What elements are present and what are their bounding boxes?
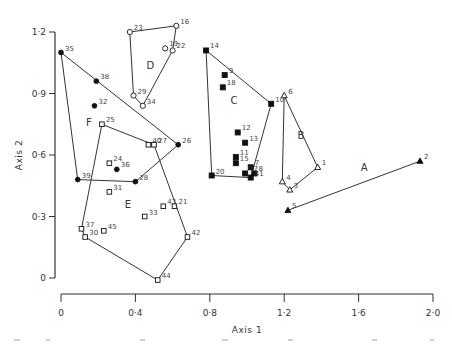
point-label: 23 xyxy=(134,24,143,32)
point-label: 9 xyxy=(229,67,233,75)
group-label-d: D xyxy=(146,60,154,71)
point-34-marker xyxy=(140,103,145,108)
point-4-marker xyxy=(279,178,285,183)
point-label: 42 xyxy=(191,229,200,237)
cropped-caption-remnant xyxy=(0,337,452,344)
point-37-marker xyxy=(79,227,84,232)
point-label: 25 xyxy=(106,116,115,124)
point-label: 45 xyxy=(108,223,117,231)
point-19-marker xyxy=(163,46,168,51)
point-33-marker xyxy=(142,214,147,219)
x-axis-ticks: 00·40·81·21·62·0 xyxy=(58,294,440,318)
point-28-marker xyxy=(133,179,138,184)
point-label: 4 xyxy=(286,174,291,182)
point-36-marker xyxy=(114,167,119,172)
y-tick-label: 0·6 xyxy=(32,150,47,160)
point-39-marker xyxy=(75,177,80,182)
group-label-a: A xyxy=(361,162,368,173)
point-32-marker xyxy=(92,103,97,108)
point-1-marker xyxy=(315,164,321,169)
point-12-marker xyxy=(235,130,240,135)
group-label-f: F xyxy=(86,117,92,128)
point-35-marker xyxy=(59,50,64,55)
group-label-c: C xyxy=(230,95,237,106)
point-label: 5 xyxy=(292,202,296,210)
point-13-marker xyxy=(243,140,248,145)
point-label: 2 xyxy=(424,153,428,161)
point-16-marker xyxy=(174,23,179,28)
point-23-marker xyxy=(127,29,132,34)
point-18-marker xyxy=(220,85,225,90)
point-9-marker xyxy=(222,73,227,78)
hull-group-a xyxy=(288,161,420,210)
point-26-marker xyxy=(176,142,181,147)
point-label: 10 xyxy=(275,96,284,104)
x-axis-title: Axis 1 xyxy=(232,325,262,335)
point-label: 35 xyxy=(65,45,74,53)
point-38-marker xyxy=(94,79,99,84)
point-label: 38 xyxy=(100,73,109,81)
point-label: 36 xyxy=(121,161,130,169)
point-20-marker xyxy=(209,173,214,178)
point-15-marker xyxy=(233,161,238,166)
point-22-marker xyxy=(170,48,175,53)
point-31-marker xyxy=(107,190,112,195)
point-label: 44 xyxy=(162,272,171,280)
point-25-marker xyxy=(100,122,105,127)
point-label: 37 xyxy=(85,221,94,229)
point-label: 22 xyxy=(177,42,186,50)
x-tick-label: 1·2 xyxy=(277,308,291,318)
point-label: 32 xyxy=(98,98,107,106)
point-10-marker xyxy=(269,101,274,106)
point-24-marker xyxy=(107,161,112,166)
point-40-marker xyxy=(146,142,151,147)
x-tick-label: 2·0 xyxy=(426,308,441,318)
point-42-marker xyxy=(185,235,190,240)
point-label: 3 xyxy=(294,182,298,190)
point-label: 30 xyxy=(89,229,98,237)
point-17-marker xyxy=(243,171,248,176)
y-axis-title: Axis 2 xyxy=(14,140,24,170)
point-14-marker xyxy=(204,48,209,53)
y-tick-label: 0·3 xyxy=(32,212,46,222)
point-29-marker xyxy=(131,93,136,98)
y-axis-ticks: 00·30·60·91·2 xyxy=(32,27,55,283)
point-27-marker xyxy=(152,142,157,147)
point-label: 16 xyxy=(180,18,189,26)
point-label: 41 xyxy=(255,170,264,178)
point-41-marker xyxy=(248,175,253,180)
point-label: 29 xyxy=(138,88,147,96)
y-tick-label: 0 xyxy=(40,273,46,283)
point-44-marker xyxy=(155,278,160,283)
point-label: 14 xyxy=(210,42,219,50)
point-45-marker xyxy=(101,229,106,234)
point-label: 1 xyxy=(322,159,326,167)
group-label-b: B xyxy=(298,130,305,141)
x-tick-label: 0·8 xyxy=(203,308,218,318)
y-tick-label: 1·2 xyxy=(32,27,46,37)
point-label: 6 xyxy=(288,88,293,96)
point-label: 21 xyxy=(178,198,187,206)
point-label: 18 xyxy=(227,79,236,87)
point-label: 33 xyxy=(149,209,158,217)
point-11-marker xyxy=(233,155,238,160)
data-points: 2561431491810121311157817412023161922293… xyxy=(59,18,429,283)
point-label: 13 xyxy=(249,135,258,143)
x-tick-label: 0·4 xyxy=(128,308,143,318)
point-30-marker xyxy=(83,235,88,240)
point-label: 28 xyxy=(139,174,148,182)
point-label: 39 xyxy=(82,172,91,180)
point-label: 27 xyxy=(158,137,167,145)
group-label-e: E xyxy=(125,199,131,210)
point-43-marker xyxy=(161,204,166,209)
ordination-scatter-plot: 00·30·60·91·2 00·40·81·21·62·0 Axis 1 Ax… xyxy=(0,0,452,344)
x-tick-label: 1·6 xyxy=(351,308,366,318)
point-2-marker xyxy=(417,158,423,163)
point-label: 15 xyxy=(240,155,249,163)
point-label: 34 xyxy=(147,98,156,106)
point-label: 26 xyxy=(182,137,191,145)
point-21-marker xyxy=(172,204,177,209)
y-tick-label: 0·9 xyxy=(32,89,47,99)
point-label: 12 xyxy=(242,124,251,132)
point-label: 20 xyxy=(216,168,225,176)
